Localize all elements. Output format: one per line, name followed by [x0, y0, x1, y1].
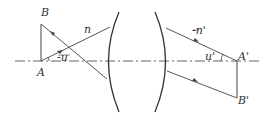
label-minus-n-prime: -n'	[192, 24, 206, 37]
label-B: B	[40, 6, 49, 19]
optical-diagram: B A n -u -n' u' A' B'	[0, 0, 270, 120]
diagram-svg: B A n -u -n' u' A' B'	[0, 0, 270, 120]
label-B-prime: B'	[237, 94, 249, 107]
label-n: n	[84, 23, 91, 36]
label-A: A	[36, 66, 45, 79]
lens-left-surface	[109, 12, 120, 112]
angle-arc-u-prime	[221, 54, 223, 61]
lens-right-surface	[155, 12, 166, 112]
ray-lens-to-B-prime	[167, 71, 237, 98]
label-minus-u: -u	[57, 51, 68, 64]
label-u-prime: u'	[205, 50, 215, 63]
label-A-prime: A'	[237, 50, 249, 63]
